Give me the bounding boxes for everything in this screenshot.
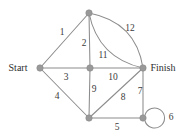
edge-bottom-finish-weight: 8	[121, 93, 126, 103]
node-finish	[140, 65, 146, 71]
edge-self-loop-weight: 6	[169, 113, 174, 123]
graph-figure: 123456789101112 Start Finish	[0, 0, 184, 138]
edge-start-bottom-weight: 4	[55, 92, 60, 102]
node-start	[37, 65, 43, 71]
edge-start-top-weight: 1	[60, 28, 65, 38]
start-label: Start	[9, 63, 28, 73]
edge-top-finish-outer	[89, 13, 143, 68]
node-center	[87, 65, 93, 71]
node-bottom-right	[140, 115, 146, 121]
edge-top-finish-inner-weight: 11	[98, 51, 107, 61]
edge-top-finish-inner	[89, 13, 143, 68]
edge-center-bottom	[89, 68, 90, 118]
edge-finish-bottomright-weight: 7	[138, 87, 143, 97]
edge-start-center-weight: 3	[64, 73, 69, 83]
edge-self-loop	[145, 108, 165, 128]
edge-center-bottom-weight: 9	[92, 85, 97, 95]
finish-label: Finish	[150, 63, 175, 73]
edge-top-finish-outer-weight: 12	[125, 24, 135, 34]
edge-top-center	[89, 13, 90, 68]
node-top	[86, 10, 92, 16]
edge-top-center-weight: 2	[82, 39, 87, 49]
edge-bottom-bottomright-weight: 5	[115, 123, 120, 133]
node-bottom	[86, 115, 92, 121]
edge-center-finish-weight: 10	[108, 73, 118, 83]
